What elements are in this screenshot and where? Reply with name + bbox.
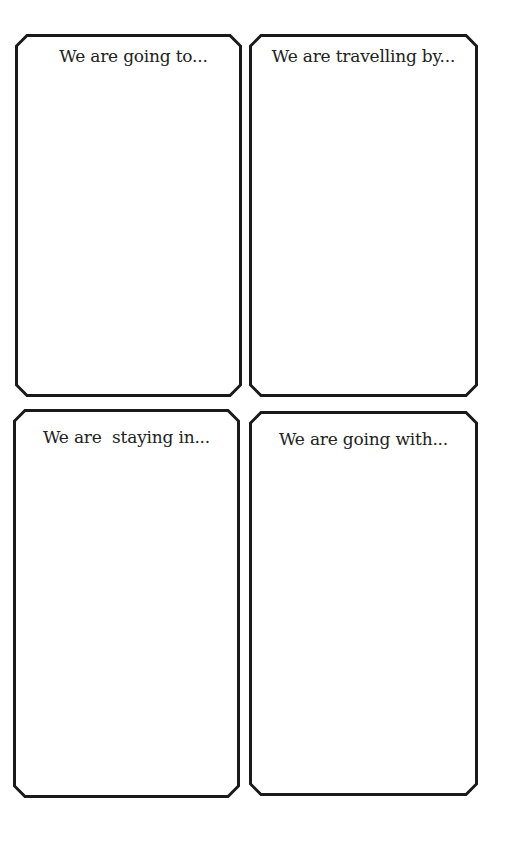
card-travelling-by: We are travelling by...: [249, 34, 478, 397]
octagon-frame: [15, 34, 242, 397]
card-label: We are going with...: [249, 429, 478, 449]
card-going-with: We are going with...: [249, 411, 478, 796]
octagon-frame: [13, 409, 240, 798]
card-going-to: We are going to...: [15, 34, 242, 397]
card-label: We are going to...: [15, 46, 242, 66]
card-label: We are travelling by...: [249, 46, 478, 66]
card-staying-in: We are staying in...: [13, 409, 240, 798]
octagon-frame: [249, 411, 478, 796]
octagon-frame: [249, 34, 478, 397]
card-label: We are staying in...: [13, 427, 240, 447]
